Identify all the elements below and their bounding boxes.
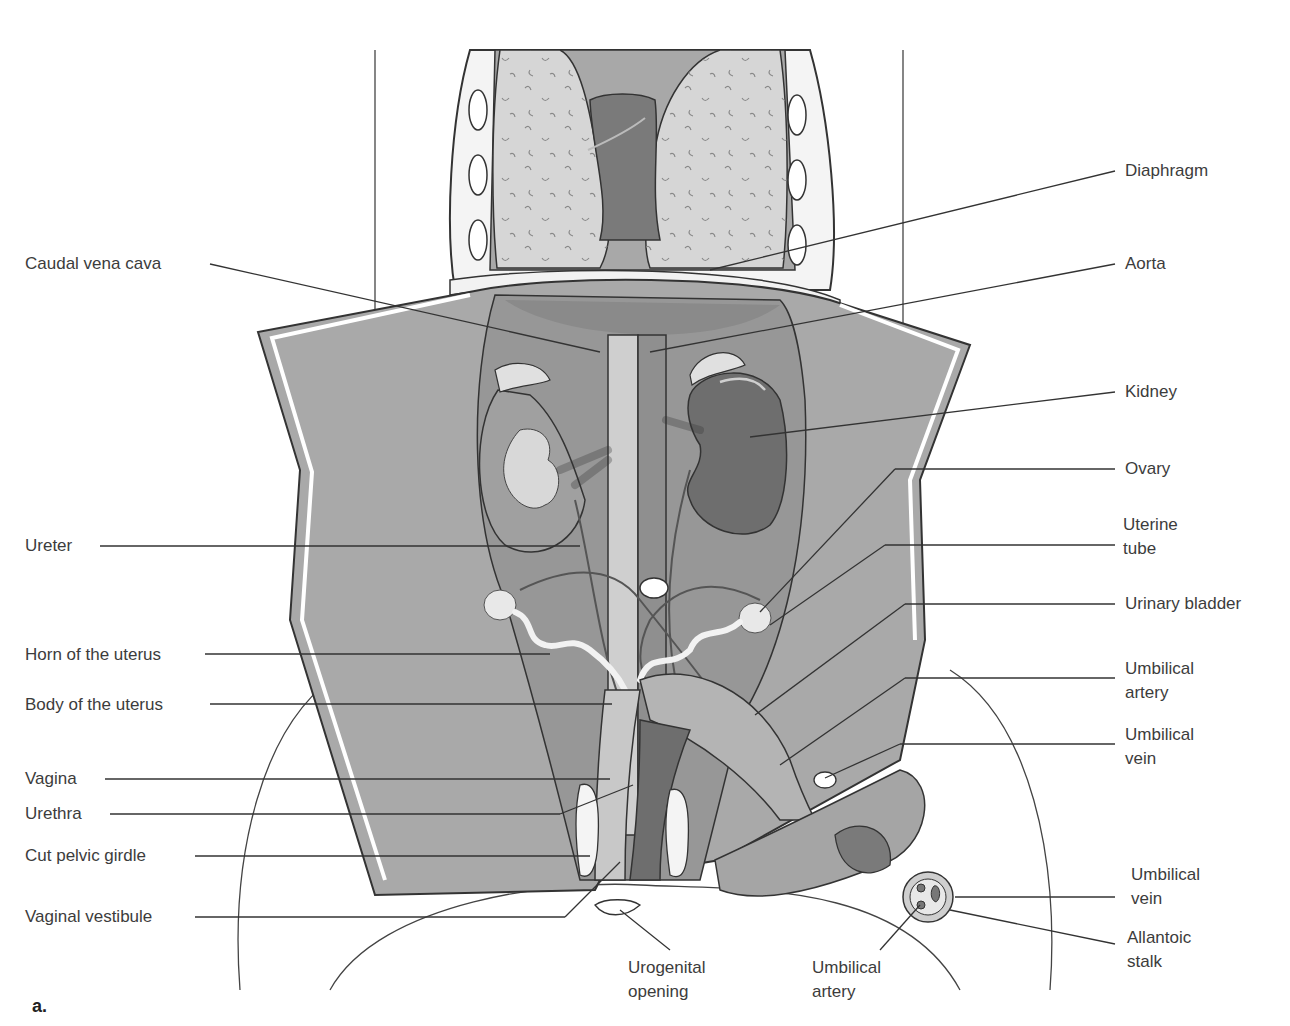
- label-vagina: Vagina: [25, 767, 77, 791]
- cut-pelvic-girdle: [576, 784, 599, 876]
- label-body-of-uterus: Body of the uterus: [25, 693, 163, 717]
- label-umbilical-vein: Umbilical vein: [1125, 723, 1225, 771]
- label-aorta: Aorta: [1125, 252, 1166, 276]
- cut-allantoic-tube: [640, 578, 668, 598]
- label-vaginal-vestibule: Vaginal vestibule: [25, 905, 152, 929]
- label-umbilical-vein-cord: Umbilical vein: [1131, 863, 1231, 911]
- panel-label: a.: [32, 996, 47, 1017]
- label-caudal-vena-cava: Caudal vena cava: [25, 252, 161, 276]
- label-diaphragm: Diaphragm: [1125, 159, 1208, 183]
- label-umbilical-artery-cord: Umbilical artery: [812, 956, 912, 1004]
- label-cut-pelvic-girdle: Cut pelvic girdle: [25, 844, 146, 868]
- label-urogenital-opening: Urogenital opening: [628, 956, 738, 1004]
- label-uterine-tube: Uterine tube: [1123, 513, 1213, 561]
- label-urinary-bladder: Urinary bladder: [1125, 592, 1241, 616]
- label-horn-of-uterus: Horn of the uterus: [25, 643, 161, 667]
- urogenital-opening: [595, 900, 640, 915]
- label-ovary: Ovary: [1125, 457, 1170, 481]
- label-umbilical-artery: Umbilical artery: [1125, 657, 1225, 705]
- label-allantoic-stalk: Allantoic stalk: [1127, 926, 1227, 974]
- label-kidney: Kidney: [1125, 380, 1177, 404]
- label-urethra: Urethra: [25, 802, 82, 826]
- anatomy-diagram: [0, 0, 1290, 1026]
- label-ureter: Ureter: [25, 534, 72, 558]
